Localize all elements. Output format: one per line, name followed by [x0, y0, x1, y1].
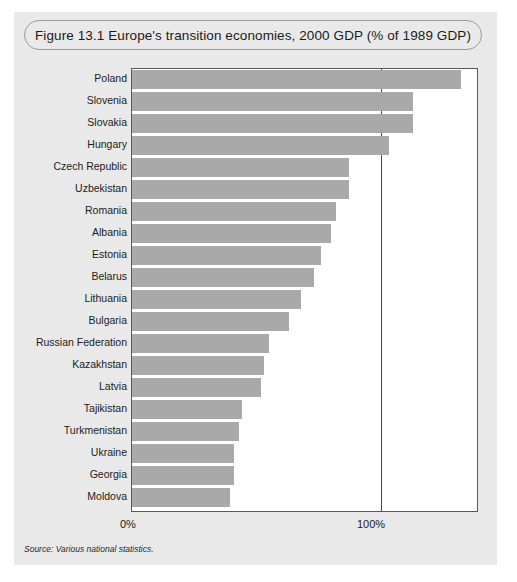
figure-card: Figure 13.1 Europe's transition economie…: [14, 12, 497, 565]
x-tick-label-100: 100%: [357, 518, 385, 530]
chart-container: Poland Slovenia Slovakia Hungary Czech R…: [14, 12, 497, 565]
x-axis-labels: 0% 100%: [14, 12, 497, 565]
source-note: Source: Various national statistics.: [24, 544, 154, 554]
x-tick-label-0: 0%: [120, 518, 136, 530]
